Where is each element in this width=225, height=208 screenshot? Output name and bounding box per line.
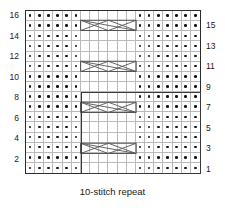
chart-cell-purl [63,102,72,112]
chart-cell-purl [163,72,172,82]
chart-cell-purl [35,41,44,51]
chart-cell-knit [108,153,117,163]
chart-cell-purl [26,52,35,62]
chart-cell-purl [136,31,145,41]
chart-cell-purl [53,31,62,41]
chart-cell-purl [173,122,182,132]
chart-cell-purl [63,31,72,41]
chart-cell-purl [173,62,182,72]
chart-cell-purl [72,11,81,21]
chart-cell-purl [154,72,163,82]
chart-cell-knit [108,41,117,51]
chart-cell-knit [108,21,117,31]
chart-cell-purl [163,52,172,62]
chart-cell-purl [72,112,81,122]
chart-cell-purl [44,122,53,132]
chart-cell-purl [145,92,154,102]
chart-cell-purl [163,133,172,143]
chart-cell-knit [118,112,127,122]
chart-cell-purl [26,62,35,72]
chart-cell-purl [35,163,44,173]
chart-cell-purl [136,92,145,102]
chart-cell-knit [90,153,99,163]
chart-cell-knit [90,92,99,102]
chart-cell-purl [136,21,145,31]
chart-cell-purl [145,82,154,92]
chart-cell-purl [72,62,81,72]
chart-cell-purl [53,102,62,112]
chart-cell-purl [145,62,154,72]
chart-cell-purl [53,122,62,132]
chart-cell-purl [35,52,44,62]
chart-cell-purl [26,133,35,143]
chart-cell-purl [154,11,163,21]
chart-cell-purl [173,82,182,92]
chart-cell-knit [118,153,127,163]
chart-cell-purl [63,41,72,51]
chart-cell-purl [173,31,182,41]
chart-cell-purl [53,41,62,51]
chart-cell-purl [154,21,163,31]
chart-cell-purl [53,112,62,122]
chart-cell-knit [90,163,99,173]
chart-cell-knit [81,82,90,92]
chart-cell-purl [72,82,81,92]
chart-cell-purl [63,143,72,153]
chart-cell-purl [63,153,72,163]
chart-cell-purl [145,112,154,122]
chart-cell-purl [44,11,53,21]
chart-cell-purl [163,112,172,122]
chart-cell-purl [53,72,62,82]
row-number-2: 2 [0,154,22,164]
chart-cell-knit [81,133,90,143]
chart-cell-knit [118,92,127,102]
chart-cell-purl [53,62,62,72]
chart-cell-purl [173,11,182,21]
chart-cell-purl [44,163,53,173]
chart-cell-knit [81,112,90,122]
chart-cell-purl [35,11,44,21]
chart-cell-purl [173,52,182,62]
chart-cell-purl [63,133,72,143]
chart-cell-purl [136,122,145,132]
chart-cell-knit [90,122,99,132]
knitting-chart: 161412108642 15131197531 10-stitch repea… [0,0,225,208]
chart-cell-purl [26,21,35,31]
chart-cell-knit [99,133,108,143]
chart-cell-purl [35,21,44,31]
chart-cell-knit [108,82,117,92]
row-numbers-left: 161412108642 [0,10,22,174]
chart-cell-purl [191,112,200,122]
chart-cell-knit [81,52,90,62]
chart-cell-purl [136,133,145,143]
chart-cell-purl [72,31,81,41]
chart-cell-purl [53,92,62,102]
chart-cell-knit [127,62,136,72]
chart-cell-purl [145,31,154,41]
chart-cell-purl [145,102,154,112]
chart-cell-purl [63,122,72,132]
chart-cell-knit [127,41,136,51]
chart-cell-purl [163,92,172,102]
chart-cell-purl [163,82,172,92]
chart-cell-knit [127,31,136,41]
chart-cell-knit [127,153,136,163]
chart-cell-knit [118,122,127,132]
chart-cell-knit [108,102,117,112]
chart-cell-purl [163,122,172,132]
chart-cell-purl [72,72,81,82]
row-number-7: 7 [203,102,225,112]
chart-cell-purl [173,133,182,143]
chart-cell-purl [191,143,200,153]
row-numbers-right: 15131197531 [203,10,225,174]
chart-cell-purl [173,21,182,31]
chart-cell-knit [81,153,90,163]
chart-cell-purl [53,163,62,173]
chart-cell-purl [53,82,62,92]
chart-cell-purl [72,143,81,153]
chart-cell-purl [145,143,154,153]
chart-cell-knit [127,133,136,143]
chart-cell-purl [191,133,200,143]
chart-cell-purl [53,21,62,31]
chart-cell-knit [108,92,117,102]
